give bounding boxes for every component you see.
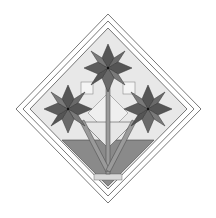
right-star	[124, 85, 172, 133]
quilt-block-diagram	[0, 0, 216, 218]
top-star	[84, 44, 132, 92]
left-star	[44, 85, 92, 133]
